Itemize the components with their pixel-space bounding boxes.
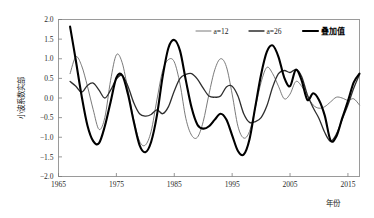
y-tick-label: −0.5 <box>40 113 54 122</box>
x-tick-label: 1965 <box>51 180 66 189</box>
y-tick-label: 1.5 <box>44 35 54 44</box>
x-tick-label: 1985 <box>167 180 182 189</box>
chart-legend: a=12a=26叠加值 <box>196 26 345 36</box>
legend-label-2: 叠加值 <box>321 26 345 36</box>
y-tick-label: −1.0 <box>40 133 54 142</box>
svg-text:年份: 年份 <box>326 198 341 208</box>
x-axis-title: 年份 <box>326 198 341 208</box>
x-tick-label: 2005 <box>283 180 298 189</box>
x-tick-label: 1975 <box>109 180 124 189</box>
y-tick-label: 0.5 <box>44 74 54 83</box>
svg-text:小波系数实部: 小波系数实部 <box>16 76 26 119</box>
x-tick-label: 1995 <box>225 180 240 189</box>
y-tick-label: 2.0 <box>44 15 54 24</box>
y-tick-label: −1.5 <box>40 153 54 162</box>
x-tick-label: 2015 <box>340 180 355 189</box>
legend-label-0: a=12 <box>214 27 229 36</box>
legend-label-1: a=26 <box>267 27 282 36</box>
y-axis-title: 小波系数实部 <box>16 76 26 119</box>
y-tick-label: 1.0 <box>44 54 54 63</box>
wavelet-real-part-chart: −2.0−1.5−1.0−0.50.00.51.01.52.0 19651975… <box>0 0 374 218</box>
y-tick-label: 0.0 <box>44 94 54 103</box>
